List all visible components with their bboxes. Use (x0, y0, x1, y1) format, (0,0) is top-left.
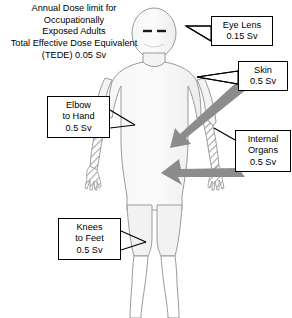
callout-knees-region-2: to Feet (75, 233, 104, 244)
callout-knees-region-1: Knees (76, 222, 102, 233)
title-line-5: (TEDE) 0.05 Sv (0, 50, 148, 62)
callout-elbow-to-hand: Elbow to Hand 0.5 Sv (47, 96, 110, 138)
callout-internal-region-1: Internal (248, 134, 279, 145)
right-forearm-hatched (203, 118, 219, 170)
callout-knees-to-feet: Knees to Feet 0.5 Sv (58, 218, 121, 260)
title-line-1: Annual Dose limit for (0, 3, 148, 15)
callout-skin: Skin 0.5 Sv (238, 61, 288, 91)
callout-internal-organs: Internal Organs 0.5 Sv (235, 130, 291, 172)
right-thigh (157, 205, 182, 256)
leader-internal-top (214, 128, 235, 140)
title-line-2: Occupationally (0, 15, 148, 27)
callout-eye-lens-value: 0.15 Sv (226, 31, 257, 42)
callout-skin-value: 0.5 Sv (250, 76, 276, 87)
callout-knees-value: 0.5 Sv (76, 245, 102, 256)
diagram-canvas: Annual Dose limit for Occupationally Exp… (0, 0, 292, 318)
diagram-title: Annual Dose limit for Occupationally Exp… (0, 3, 148, 62)
callout-elbow-region-2: to Hand (62, 111, 94, 122)
callout-eye-lens-region: Eye Lens (223, 20, 261, 31)
left-lower-leg (130, 256, 148, 318)
callout-elbow-region-1: Elbow (66, 100, 91, 111)
callout-internal-region-2: Organs (248, 145, 278, 156)
callout-internal-value: 0.5 Sv (250, 157, 276, 168)
callout-skin-region: Skin (254, 65, 272, 76)
left-thigh (127, 205, 152, 256)
title-line-4: Total Effective Dose Equivalent (0, 38, 148, 50)
title-line-3: Exposed Adults (0, 26, 148, 38)
left-hand-hatched (85, 166, 101, 190)
right-lower-leg (161, 256, 179, 318)
callout-elbow-value: 0.5 Sv (65, 123, 91, 134)
callout-eye-lens: Eye Lens 0.15 Sv (211, 16, 273, 46)
